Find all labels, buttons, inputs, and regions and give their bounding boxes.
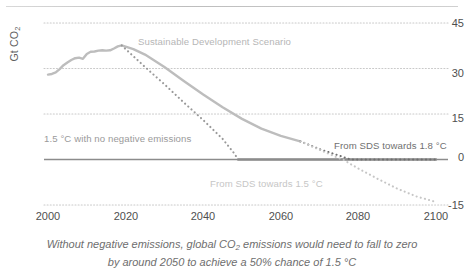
y-tick-15: 15	[422, 112, 464, 124]
annotation-sds-towards-1-5c: From SDS towards 1.5 °C	[210, 178, 323, 189]
caption-line-1: Without negative emissions, global CO2 e…	[0, 236, 464, 254]
chart-caption: Without negative emissions, global CO2 e…	[0, 236, 464, 270]
x-tick-2080: 2080	[328, 210, 388, 222]
caption-line-2: by around 2050 to achieve a 50% chance o…	[0, 254, 464, 270]
x-tick-2040: 2040	[173, 210, 233, 222]
annotation-no-negative-emissions: 1.5 °C with no negative emissions	[44, 133, 191, 144]
caption-line-1-post: emissions would need to fall to zero	[240, 238, 417, 250]
x-tick-2100: 2100	[406, 210, 466, 222]
y-tick-0: 0	[422, 151, 464, 163]
y-axis-title: Gt CO2	[8, 16, 20, 72]
x-tick-2020: 2020	[96, 210, 156, 222]
annotation-sds-towards-1-8c: From SDS towards 1.8 °C	[334, 140, 447, 151]
y-tick-30: 30	[422, 67, 464, 79]
x-tick-2000: 2000	[18, 210, 78, 222]
caption-co2-subscript: 2	[236, 243, 240, 252]
annotation-sustainable-development-scenario: Sustainable Development Scenario	[138, 36, 291, 47]
y-axis-title-text: Gt CO	[8, 31, 20, 62]
y-tick-45: 45	[422, 17, 464, 29]
x-tick-2060: 2060	[251, 210, 311, 222]
y-axis-title-subscript: 2	[13, 26, 22, 30]
caption-line-1-pre: Without negative emissions, global CO	[47, 238, 236, 250]
